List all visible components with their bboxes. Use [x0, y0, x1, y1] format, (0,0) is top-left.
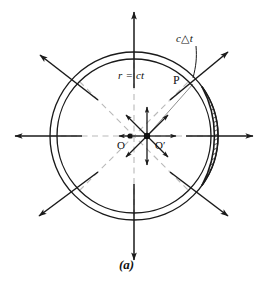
- ray-southwest: [39, 172, 98, 216]
- c-delta-t-leader-line: [193, 46, 196, 78]
- starburst-ray-southwest: [126, 136, 147, 157]
- figure-caption: (a): [119, 258, 134, 271]
- point-p-label: P: [173, 74, 180, 86]
- origin-prime-label: O′: [155, 140, 165, 151]
- radius-label: r = ct: [118, 70, 144, 81]
- wavefront-figure: r = ct c△t P O O′ (a): [0, 0, 265, 285]
- ray-northwest: [40, 55, 98, 100]
- wavefront-diagram-svg: [0, 0, 265, 285]
- radius-line-to-p: [147, 84, 193, 136]
- origin-label: O: [117, 140, 125, 151]
- origin-o-dot: [127, 133, 132, 138]
- shell-thickness-label: c△t: [176, 33, 193, 44]
- ray-southeast: [170, 172, 228, 216]
- starburst-ray-northwest: [126, 115, 147, 136]
